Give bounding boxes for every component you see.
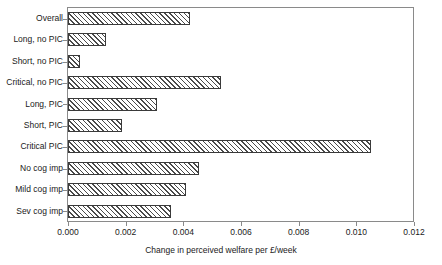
x-axis-tick-label: 0.002 xyxy=(115,227,136,237)
x-axis-tick-mark xyxy=(68,222,69,226)
bar xyxy=(68,12,190,25)
y-axis-label: No cog imp xyxy=(0,158,63,179)
x-axis-tick-mark xyxy=(299,222,300,226)
y-axis-label: Long, PIC xyxy=(0,94,63,115)
x-axis-tick-label: 0.012 xyxy=(403,227,424,237)
bar-row xyxy=(68,115,414,136)
bar xyxy=(68,98,157,111)
bar-row xyxy=(68,72,414,93)
y-axis-tick-mark xyxy=(63,62,67,63)
bar xyxy=(68,33,106,46)
bar-row xyxy=(68,158,414,179)
y-axis-label: Sev cog imp xyxy=(0,201,63,222)
y-axis-label: Critical, no PIC xyxy=(0,72,63,93)
y-axis-label: Short, PIC xyxy=(0,115,63,136)
y-axis-tick-mark xyxy=(63,19,67,20)
x-axis-tick-label: 0.000 xyxy=(57,227,78,237)
bar xyxy=(68,205,171,218)
y-axis-label: Overall xyxy=(0,8,63,29)
x-axis-tick-label: 0.006 xyxy=(230,227,251,237)
x-axis-tick-mark xyxy=(183,222,184,226)
y-axis-tick-mark xyxy=(63,169,67,170)
bar-row xyxy=(68,51,414,72)
y-axis-tick-mark xyxy=(63,104,67,105)
x-axis-title: Change in perceived welfare per £/week xyxy=(0,245,442,255)
bar-row xyxy=(68,94,414,115)
bar-chart: OverallLong, no PICShort, no PICCritical… xyxy=(0,0,442,265)
y-axis-tick-mark xyxy=(63,40,67,41)
bar xyxy=(68,119,122,132)
y-axis-label: Short, no PIC xyxy=(0,51,63,72)
y-axis-tick-mark xyxy=(63,147,67,148)
x-axis-ticks: 0.0000.0020.0040.0060.0080.0100.012 xyxy=(68,222,414,242)
bar xyxy=(68,183,186,196)
x-axis-tick-mark xyxy=(241,222,242,226)
x-axis-tick-mark xyxy=(414,222,415,226)
x-axis-tick-label: 0.008 xyxy=(288,227,309,237)
y-axis-tick-mark xyxy=(63,190,67,191)
y-axis-category-labels: OverallLong, no PICShort, no PICCritical… xyxy=(0,8,63,222)
x-axis-tick-label: 0.010 xyxy=(346,227,367,237)
bar xyxy=(68,140,371,153)
bar-series xyxy=(68,8,414,222)
bar-row xyxy=(68,8,414,29)
bar-row xyxy=(68,136,414,157)
x-axis-tick-mark xyxy=(126,222,127,226)
x-axis-tick-label: 0.004 xyxy=(173,227,194,237)
y-axis-label: Long, no PIC xyxy=(0,29,63,50)
y-axis-tick-mark xyxy=(63,211,67,212)
bar xyxy=(68,76,221,89)
y-axis-label: Mild cog imp xyxy=(0,179,63,200)
y-axis-label: Critical PIC xyxy=(0,136,63,157)
y-axis-tick-mark xyxy=(63,83,67,84)
y-axis-tick-mark xyxy=(63,126,67,127)
bar-row xyxy=(68,201,414,222)
bar-row xyxy=(68,179,414,200)
bar-row xyxy=(68,29,414,50)
bar xyxy=(68,162,199,175)
x-axis-tick-mark xyxy=(356,222,357,226)
bar xyxy=(68,55,80,68)
